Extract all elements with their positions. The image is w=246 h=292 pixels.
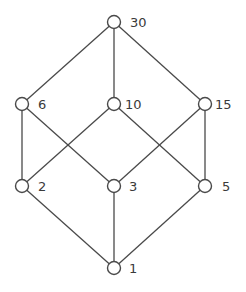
node-label: 2 (38, 179, 46, 194)
node-label: 15 (215, 97, 232, 112)
node-6: 6 (16, 97, 47, 112)
node-circle-icon (199, 98, 212, 111)
node-5: 5 (199, 179, 231, 194)
nodes-layer: 30610152351 (16, 15, 232, 276)
node-circle-icon (16, 180, 29, 193)
node-30: 30 (108, 15, 147, 30)
edge-5-1 (119, 190, 200, 263)
node-circle-icon (108, 262, 121, 275)
node-2: 2 (16, 179, 47, 194)
node-circle-icon (16, 98, 29, 111)
edge-2-1 (27, 190, 109, 263)
node-label: 1 (129, 261, 137, 276)
node-label: 30 (130, 15, 147, 30)
hasse-diagram: 30610152351 (0, 0, 246, 292)
node-15: 15 (199, 97, 232, 112)
node-10: 10 (108, 97, 142, 112)
node-circle-icon (199, 180, 212, 193)
edge-30-15 (119, 26, 200, 99)
node-circle-icon (108, 180, 121, 193)
edge-30-6 (27, 26, 109, 99)
node-1: 1 (108, 261, 138, 276)
node-label: 6 (38, 97, 46, 112)
node-label: 3 (129, 179, 137, 194)
node-circle-icon (108, 16, 121, 29)
node-3: 3 (108, 179, 138, 194)
node-label: 10 (125, 97, 142, 112)
edges-layer (22, 26, 205, 263)
node-circle-icon (108, 98, 121, 111)
node-label: 5 (222, 179, 230, 194)
